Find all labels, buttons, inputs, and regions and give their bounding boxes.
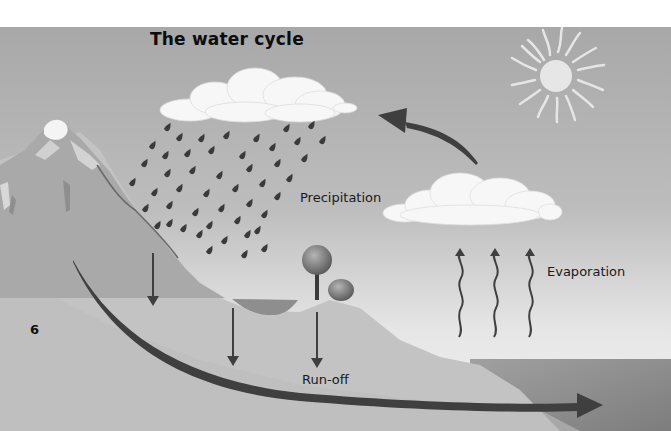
- page-margin: [0, 0, 671, 27]
- evaporation-label: Evaporation: [547, 264, 625, 279]
- precipitation-label: Precipitation: [300, 190, 381, 205]
- runoff-label: Run-off: [302, 372, 349, 387]
- page-number: 6: [30, 322, 39, 337]
- water-cycle-diagram: [0, 0, 671, 431]
- diagram-title: The water cycle: [150, 29, 304, 49]
